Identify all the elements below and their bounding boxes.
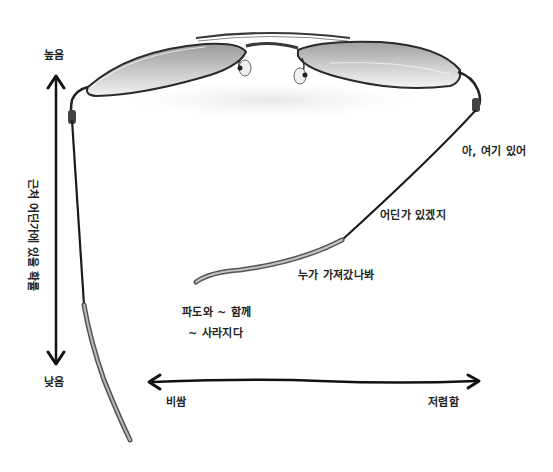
x-axis-left-label: 비쌈 bbox=[166, 393, 187, 409]
top-bar bbox=[196, 33, 350, 38]
y-axis-arrow bbox=[48, 76, 64, 364]
y-axis-bottom-label: 낮음 bbox=[44, 373, 65, 389]
glasses-illustration bbox=[0, 0, 553, 472]
y-axis-title: 근처 어딘가에 있을 확률 bbox=[26, 160, 42, 310]
x-axis-arrow bbox=[149, 375, 479, 389]
y-axis-top-label: 높음 bbox=[44, 46, 65, 62]
y-axis-title-text: 근처 어딘가에 있을 확률 bbox=[26, 179, 42, 291]
annotation-with-waves: 파도와 ~ 함께 bbox=[182, 303, 251, 319]
annotation-someone-took-it: 누가 가져갔나봐 bbox=[298, 266, 374, 282]
annotation-somewhere: 어딘가 있겠지 bbox=[380, 206, 446, 222]
left-temple bbox=[68, 87, 130, 440]
bridge bbox=[246, 43, 298, 48]
x-axis-right-label: 저렴함 bbox=[428, 393, 459, 409]
annotation-disappear: ~ 사라지다 bbox=[188, 324, 243, 340]
annotation-here-it-is: 아, 여기 있어 bbox=[462, 142, 526, 158]
diagram-canvas: 높음 근처 어딘가에 있을 확률 낮음 비쌈 저렴함 아, 여기 있어 어딘가 … bbox=[0, 0, 553, 472]
